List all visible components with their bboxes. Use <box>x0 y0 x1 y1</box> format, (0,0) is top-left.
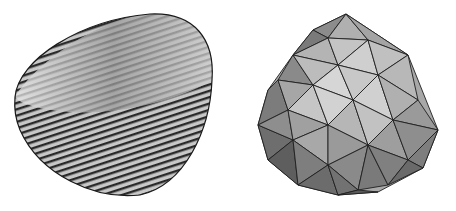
bowl-surface-image <box>0 0 228 211</box>
faceted-mesh-figure <box>228 0 456 211</box>
striped-bowl-figure <box>0 0 228 211</box>
mesh-surface-image <box>228 0 456 211</box>
